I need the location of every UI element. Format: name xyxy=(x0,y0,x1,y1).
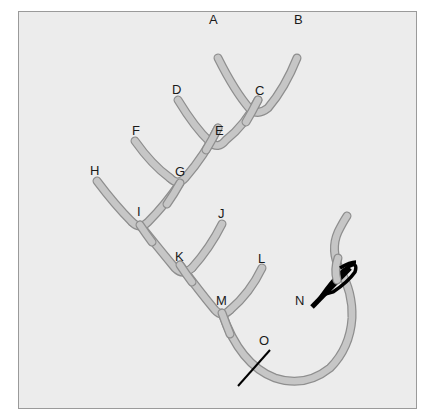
labels: A B C D E F G H I J K L M N O xyxy=(90,12,304,348)
label-e: E xyxy=(215,123,224,138)
label-n: N xyxy=(295,293,304,308)
label-d: D xyxy=(172,82,181,97)
label-a: A xyxy=(209,12,218,27)
thread-strands xyxy=(97,58,352,381)
label-k: K xyxy=(175,249,184,264)
label-i: I xyxy=(137,204,141,219)
label-l: L xyxy=(258,251,265,266)
label-j: J xyxy=(218,206,225,221)
label-o: O xyxy=(259,333,269,348)
stitch-diagram: A B C D E F G H I J K L M N O xyxy=(0,0,424,416)
label-g: G xyxy=(175,164,185,179)
label-h: H xyxy=(90,163,99,178)
label-b: B xyxy=(294,12,303,27)
label-f: F xyxy=(132,123,140,138)
label-c: C xyxy=(255,83,264,98)
label-m: M xyxy=(216,293,227,308)
